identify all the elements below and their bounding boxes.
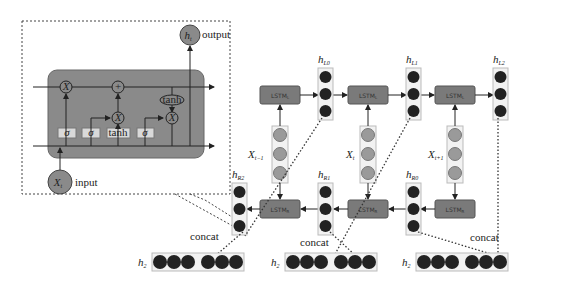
lstm-l-cell-1: LSTML: [260, 86, 300, 104]
svg-text:hR0: hR0: [406, 168, 418, 181]
svg-text:+: +: [115, 80, 121, 92]
lstm-l-cell-3: LSTML: [435, 86, 475, 104]
lstm-r-cell-2: LSTMR: [348, 200, 388, 218]
svg-text:hL0: hL0: [318, 53, 330, 66]
state-column-hR2: hR2: [232, 168, 247, 235]
svg-text:hR1: hR1: [318, 168, 330, 181]
svg-text:tanh: tanh: [163, 93, 182, 105]
input-column-xt: Xt: [345, 105, 376, 199]
svg-text:σ: σ: [64, 126, 70, 138]
svg-text:h2: h2: [271, 256, 280, 269]
concat-label-3: concat: [470, 231, 499, 243]
concat-label-1: concat: [190, 230, 219, 242]
state-column-hR1: hR1: [318, 168, 333, 235]
input-column-xt-minus-1: Xt−1: [247, 105, 288, 199]
input-layer: Xt−1 Xt Xt+1: [247, 105, 463, 199]
backward-layer: LSTMR LSTMR LSTMR hR2 hR1 hR0: [232, 168, 475, 235]
state-column-hL1: hL1: [406, 53, 421, 120]
svg-text:X: X: [114, 111, 123, 123]
callout-lines: [175, 194, 240, 230]
lstm-r-cell-3: LSTMR: [435, 200, 475, 218]
svg-text:h2: h2: [138, 256, 147, 269]
svg-text:Xt: Xt: [345, 148, 355, 161]
lstm-l-cell-2: LSTML: [348, 86, 388, 104]
input-column-xt-plus-1: Xt+1: [427, 105, 463, 199]
svg-text:X: X: [62, 80, 71, 92]
svg-text:hR2: hR2: [232, 168, 244, 181]
input-label: input: [75, 176, 98, 188]
state-column-hL2: hL2: [493, 53, 508, 120]
output-row-1: h2: [138, 253, 244, 271]
output-label: output: [202, 28, 230, 40]
inset-cell-body: [48, 70, 204, 158]
output-row-3: h2: [402, 253, 508, 271]
output-node: [180, 25, 200, 45]
svg-text:X: X: [168, 111, 177, 123]
output-row-2: h2: [271, 253, 377, 271]
bilstm-diagram: σ σ tanh σ X + X X tanh ht output Xt: [0, 0, 567, 289]
lstm-cell-inset: σ σ tanh σ X + X X tanh ht output Xt: [22, 21, 240, 230]
concat-label-2: concat: [300, 236, 329, 248]
svg-text:Xt−1: Xt−1: [247, 148, 263, 161]
state-column-hL0: hL0: [318, 53, 333, 120]
forward-layer: LSTML LSTML LSTML hL0 hL1 hL2: [260, 53, 508, 120]
svg-text:h2: h2: [402, 256, 411, 269]
svg-text:Xt+1: Xt+1: [427, 148, 443, 161]
svg-text:hL1: hL1: [406, 53, 418, 66]
svg-text:hL2: hL2: [493, 53, 505, 66]
state-column-hR0: hR0: [406, 168, 421, 235]
